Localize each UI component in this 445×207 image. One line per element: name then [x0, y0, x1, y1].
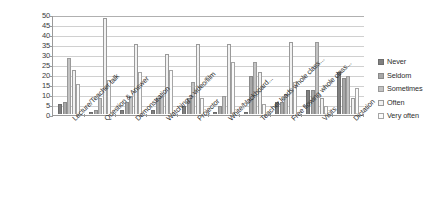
y-tick-label-5: 5 [26, 102, 50, 110]
y-tick-20 [50, 76, 53, 77]
y-tick-label-40: 40 [26, 32, 50, 40]
legend-swatch-icon [378, 113, 384, 119]
legend-item-sometimes[interactable]: Sometimes [378, 85, 444, 93]
x-axis-labels: Lecture/Teacher talkQuestion & AnswerDem… [52, 117, 364, 207]
bar[interactable] [89, 112, 93, 114]
legend-label: Never [387, 58, 406, 66]
bar[interactable] [196, 44, 200, 114]
y-tick-25 [50, 66, 53, 67]
bar[interactable] [58, 104, 62, 114]
y-tick-45 [50, 26, 53, 27]
legend-swatch-icon [378, 100, 384, 106]
legend-swatch-icon [378, 59, 384, 65]
bar[interactable] [289, 42, 293, 114]
y-tick-label-45: 45 [26, 22, 50, 30]
y-tick-30 [50, 56, 53, 57]
bar-chart: 05101520253035404550 Lecture/Teacher tal… [0, 0, 445, 207]
y-tick-label-20: 20 [26, 72, 50, 80]
legend-item-very-often[interactable]: Very often [378, 112, 444, 120]
y-tick-label-50: 50 [26, 12, 50, 20]
bar[interactable] [227, 44, 231, 114]
bar[interactable] [218, 106, 222, 114]
y-tick-label-30: 30 [26, 52, 50, 60]
y-axis-labels: 05101520253035404550 [26, 16, 50, 116]
y-tick-label-15: 15 [26, 82, 50, 90]
bar-group [54, 16, 85, 114]
legend-item-seldom[interactable]: Seldom [378, 72, 444, 80]
legend-label: Seldom [387, 72, 411, 80]
y-tick-label-25: 25 [26, 62, 50, 70]
bar[interactable] [315, 42, 319, 114]
legend-item-never[interactable]: Never [378, 58, 444, 66]
legend-swatch-icon [378, 86, 384, 92]
y-tick-5 [50, 106, 53, 107]
y-tick-50 [50, 16, 53, 17]
chart-legend: NeverSeldomSometimesOftenVery often [378, 58, 444, 126]
bar[interactable] [244, 112, 248, 114]
bar[interactable] [103, 18, 107, 114]
bar[interactable] [120, 110, 124, 114]
bar[interactable] [134, 44, 138, 114]
legend-item-often[interactable]: Often [378, 99, 444, 107]
y-tick-10 [50, 96, 53, 97]
bar[interactable] [94, 110, 98, 114]
bar[interactable] [222, 96, 226, 114]
y-tick-15 [50, 86, 53, 87]
bar[interactable] [72, 70, 76, 114]
y-tick-label-35: 35 [26, 42, 50, 50]
bar[interactable] [151, 110, 155, 114]
y-tick-label-10: 10 [26, 92, 50, 100]
legend-label: Sometimes [387, 85, 423, 93]
y-tick-40 [50, 36, 53, 37]
bar[interactable] [67, 58, 71, 114]
y-tick-35 [50, 46, 53, 47]
legend-label: Very often [387, 112, 419, 120]
bar[interactable] [63, 102, 67, 114]
bar[interactable] [342, 78, 346, 114]
legend-label: Often [387, 99, 404, 107]
legend-swatch-icon [378, 73, 384, 79]
bar[interactable] [213, 112, 217, 114]
y-tick-label-0: 0 [26, 112, 50, 120]
bar[interactable] [346, 76, 350, 114]
